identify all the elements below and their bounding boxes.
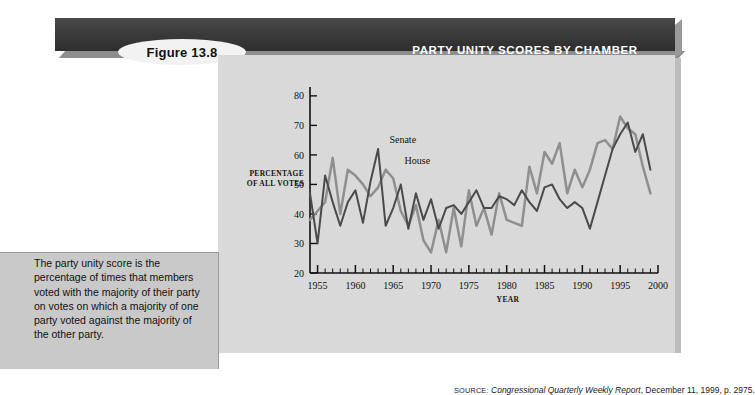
party-unity-line-chart: 20304050607080 1955196019651970197519801… bbox=[218, 55, 675, 353]
x-tick-label: 1955 bbox=[308, 280, 328, 291]
x-axis-tick-labels: 1955196019651970197519801985199019952000 bbox=[308, 280, 668, 291]
x-axis-ticks bbox=[318, 265, 658, 273]
y-tick-label: 20 bbox=[294, 268, 304, 279]
series-label-senate: Senate bbox=[389, 134, 416, 145]
y-axis-ticks bbox=[310, 96, 317, 273]
figure-header-banner: Figure 13.8 PARTY UNITY SCORES BY CHAMBE… bbox=[55, 18, 675, 51]
x-tick-label: 1980 bbox=[497, 280, 517, 291]
x-tick-label: 1995 bbox=[610, 280, 630, 291]
y-tick-label: 70 bbox=[294, 120, 304, 131]
x-tick-label: 1960 bbox=[345, 280, 365, 291]
caption-text: The party unity score is the percentage … bbox=[34, 256, 204, 342]
x-tick-label: 1975 bbox=[459, 280, 479, 291]
source-note: SOURCE: Congressional Quarterly Weekly R… bbox=[454, 385, 755, 395]
source-prefix-label: SOURCE: bbox=[454, 386, 489, 395]
x-tick-label: 1990 bbox=[572, 280, 592, 291]
source-publication: Congressional Quarterly Weekly Report bbox=[491, 385, 641, 395]
x-tick-label: 2000 bbox=[648, 280, 668, 291]
y-tick-label: 60 bbox=[294, 150, 304, 161]
x-tick-label: 1970 bbox=[421, 280, 441, 291]
series-line-house bbox=[310, 117, 650, 253]
y-axis-title-line2: OF ALL VOTES bbox=[247, 179, 304, 188]
x-axis-title: YEAR bbox=[497, 295, 520, 304]
chart-panel: 20304050607080 1955196019651970197519801… bbox=[218, 55, 675, 353]
y-tick-label: 80 bbox=[294, 90, 304, 101]
y-axis-title-line1: PERCENTAGE bbox=[249, 169, 304, 178]
chart-series-group bbox=[310, 117, 650, 253]
x-tick-label: 1965 bbox=[383, 280, 403, 291]
series-label-house: House bbox=[405, 155, 431, 166]
x-tick-label: 1985 bbox=[535, 280, 555, 291]
chart-panel-bevel bbox=[675, 58, 681, 353]
y-tick-label: 30 bbox=[294, 238, 304, 249]
figure-number-label: Figure 13.8 bbox=[147, 45, 218, 60]
series-annotations: SenateHouse bbox=[389, 134, 430, 166]
source-details: , December 11, 1999, p. 2975. bbox=[641, 385, 755, 395]
y-tick-label: 40 bbox=[294, 209, 304, 220]
